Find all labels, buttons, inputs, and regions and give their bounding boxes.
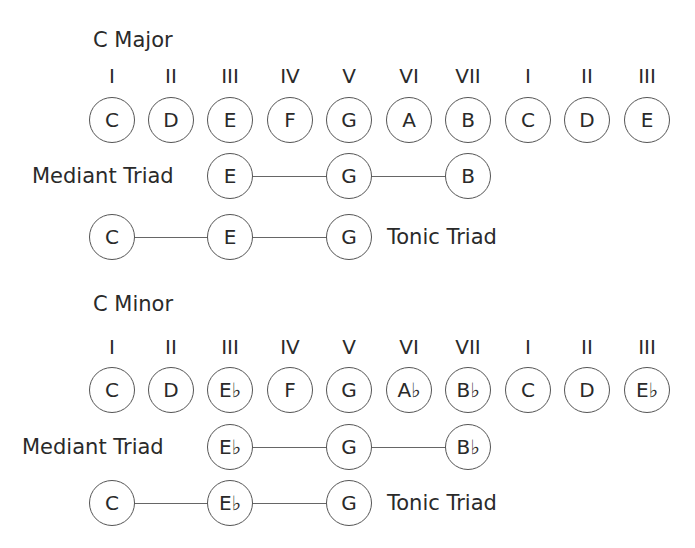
note-circle: E♭ <box>207 367 253 413</box>
scale-degree-numeral: II <box>557 336 617 358</box>
note-circle: A <box>386 97 432 143</box>
scale-degree-numeral: III <box>617 65 677 87</box>
scale-degree-numeral: IV <box>260 336 320 358</box>
scale-degree-numeral: VI <box>379 65 439 87</box>
tonic-triad-label: Tonic Triad <box>387 225 497 249</box>
scale-degree-numeral: III <box>200 65 260 87</box>
scale-degree-numeral: I <box>498 336 558 358</box>
scale-degree-numeral: III <box>200 336 260 358</box>
scale-degree-numeral: I <box>82 65 142 87</box>
note-circle: B♭ <box>445 424 491 470</box>
section-title-c-major: C Major <box>93 28 173 52</box>
note-circle: C <box>89 367 135 413</box>
note-circle: G <box>326 214 372 260</box>
scale-degree-numeral: V <box>319 336 379 358</box>
note-circle: C <box>89 97 135 143</box>
scale-degree-numeral: VII <box>438 65 498 87</box>
scale-degree-numeral: II <box>141 336 201 358</box>
note-circle: G <box>326 153 372 199</box>
tonic-triad-label: Tonic Triad <box>387 491 497 515</box>
scale-degree-numeral: I <box>498 65 558 87</box>
note-circle: F <box>267 367 313 413</box>
note-circle: G <box>326 480 372 526</box>
section-title-c-minor: C Minor <box>93 292 173 316</box>
note-circle: E <box>207 97 253 143</box>
note-circle: B♭ <box>445 367 491 413</box>
scale-degree-numeral: I <box>82 336 142 358</box>
note-circle: E <box>624 97 670 143</box>
note-circle: D <box>564 97 610 143</box>
scale-degree-numeral: II <box>141 65 201 87</box>
note-circle: E <box>207 214 253 260</box>
note-circle: C <box>505 367 551 413</box>
note-circle: G <box>326 424 372 470</box>
note-circle: C <box>505 97 551 143</box>
note-circle: E♭ <box>207 480 253 526</box>
note-circle: G <box>326 97 372 143</box>
note-circle: D <box>148 97 194 143</box>
note-circle: A♭ <box>386 367 432 413</box>
note-circle: E <box>207 153 253 199</box>
note-circle: E♭ <box>207 424 253 470</box>
scale-degree-numeral: V <box>319 65 379 87</box>
scale-degree-numeral: III <box>617 336 677 358</box>
scale-degree-numeral: VI <box>379 336 439 358</box>
note-circle: D <box>148 367 194 413</box>
note-circle: B <box>445 97 491 143</box>
note-circle: E♭ <box>624 367 670 413</box>
note-circle: F <box>267 97 313 143</box>
scale-degree-numeral: II <box>557 65 617 87</box>
scale-degree-numeral: VII <box>438 336 498 358</box>
note-circle: B <box>445 153 491 199</box>
mediant-triad-label: Mediant Triad <box>22 435 164 459</box>
note-circle: G <box>326 367 372 413</box>
note-circle: D <box>564 367 610 413</box>
note-circle: C <box>89 480 135 526</box>
mediant-triad-label: Mediant Triad <box>32 164 174 188</box>
scale-degree-numeral: IV <box>260 65 320 87</box>
note-circle: C <box>89 214 135 260</box>
